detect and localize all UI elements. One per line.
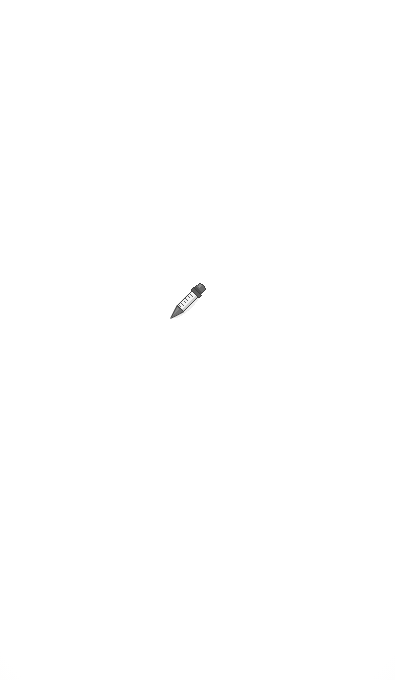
dropper-icon[interactable] [166, 278, 208, 326]
dropper-icon-graphic [166, 278, 208, 326]
icon-layer [0, 0, 395, 680]
page-canvas [0, 0, 395, 680]
